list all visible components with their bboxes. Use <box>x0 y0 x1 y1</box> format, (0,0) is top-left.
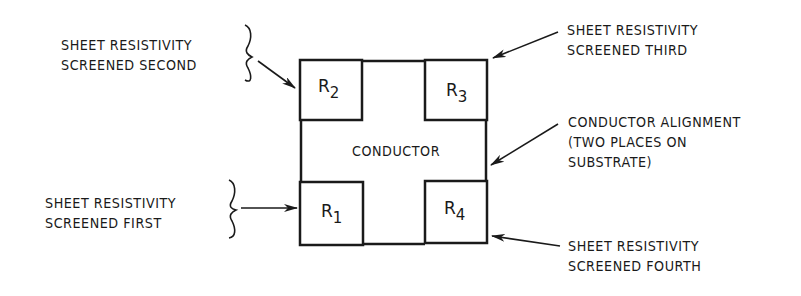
callout-line: SCREENED FIRST <box>45 213 176 233</box>
callout-screened-second: SHEET RESISTIVITY SCREENED SECOND <box>61 35 197 75</box>
callout-line: SCREENED FOURTH <box>568 256 701 276</box>
resistor-r2-label: R2 <box>318 76 339 102</box>
conductor-label: CONDUCTOR <box>352 143 440 159</box>
resistor-r3-label: R3 <box>446 80 467 106</box>
callout-line: SCREENED SECOND <box>61 55 197 75</box>
arrow-third <box>493 32 558 58</box>
arrow-alignment <box>491 124 558 165</box>
callout-line: SHEET RESISTIVITY <box>45 193 176 213</box>
callout-screened-third: SHEET RESISTIVITY SCREENED THIRD <box>567 20 698 60</box>
resistor-screening-diagram: R2 R3 R1 R4 CONDUCTOR SHEET RESISTIVITY … <box>0 0 801 296</box>
callout-line: CONDUCTOR ALIGNMENT <box>568 112 741 132</box>
callout-line: SHEET RESISTIVITY <box>568 236 701 256</box>
callout-screened-fourth: SHEET RESISTIVITY SCREENED FOURTH <box>568 236 701 276</box>
arrow-fourth <box>492 236 560 246</box>
brace-first <box>229 180 236 238</box>
brace-second <box>245 25 252 81</box>
callout-line: SHEET RESISTIVITY <box>567 20 698 40</box>
resistor-r4-label: R4 <box>444 198 465 224</box>
arrow-second <box>258 61 295 88</box>
callout-line: (TWO PLACES ON <box>568 132 741 152</box>
callout-conductor-alignment: CONDUCTOR ALIGNMENT (TWO PLACES ON SUBST… <box>568 112 741 172</box>
callout-line: SUBSTRATE) <box>568 152 741 172</box>
callout-line: SHEET RESISTIVITY <box>61 35 197 55</box>
callout-line: SCREENED THIRD <box>567 40 698 60</box>
resistor-r1-label: R1 <box>321 201 342 227</box>
callout-screened-first: SHEET RESISTIVITY SCREENED FIRST <box>45 193 176 233</box>
